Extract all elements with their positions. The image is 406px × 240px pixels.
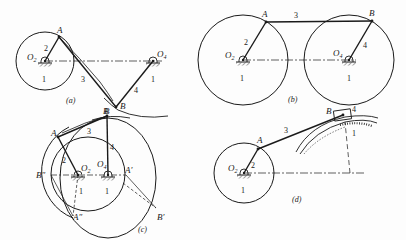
label-link-3: 3 <box>284 126 288 135</box>
diagram-svg: A 2 O2 1 3 4 B B O4 1 (a) A 3 B 2 O2 1 O… <box>0 0 406 240</box>
label-o2: O2 <box>27 52 37 63</box>
label-link-2: 2 <box>44 44 48 53</box>
panel-c: B A 3 4 2 O2 O4 B″ A′ 1 1 A″ B′ (c) <box>36 106 165 238</box>
label-ground-right: 1 <box>105 187 109 196</box>
label-a-prime: A′ <box>124 165 133 175</box>
link-3 <box>266 21 372 22</box>
panel-a: A 2 O2 1 3 4 B B O4 1 (a) <box>16 25 168 120</box>
label-link-3: 3 <box>294 11 298 20</box>
label-link-4: 4 <box>134 86 138 95</box>
label-ground-left: 1 <box>42 75 46 84</box>
label-ground-left: 1 <box>240 74 244 83</box>
label-a: A <box>50 128 57 138</box>
ground-hatch <box>340 123 372 126</box>
label-b: B <box>120 101 126 111</box>
label-a-double-prime: A″ <box>72 212 82 222</box>
label-link-3: 3 <box>81 75 85 84</box>
link-4 <box>107 116 108 175</box>
label-o4: O4 <box>97 159 107 170</box>
linkage-diagram-figure: A 2 O2 1 3 4 B B O4 1 (a) A 3 B 2 O2 1 O… <box>0 0 406 240</box>
arc-left <box>42 127 73 218</box>
curved-guide-lower <box>300 120 377 154</box>
label-b: B <box>369 8 375 18</box>
construction-o4-b1 <box>123 183 156 208</box>
joint-a <box>57 136 60 139</box>
pivot-o4-icon <box>342 56 356 66</box>
joint-a <box>58 36 61 39</box>
label-link-3: 3 <box>87 127 91 136</box>
label-link-2: 2 <box>62 156 66 165</box>
link-3 <box>58 116 107 137</box>
radius-line <box>345 122 350 173</box>
label-ground-left: 1 <box>79 187 83 196</box>
label-o2: O2 <box>81 163 91 174</box>
label-ground-left: 1 <box>241 186 245 195</box>
label-o2: O2 <box>225 50 235 61</box>
label-b: B <box>326 106 332 116</box>
joint-b <box>115 106 118 109</box>
coupler-curve <box>104 98 168 117</box>
caption-a: (a) <box>66 96 76 105</box>
label-o4: O4 <box>333 48 343 59</box>
label-ground-right: 1 <box>347 74 351 83</box>
panel-d: A 3 B 4 1 2 O2 1 (d) <box>214 105 378 204</box>
label-a: A <box>261 9 268 19</box>
construction-b2-a2 <box>51 175 73 216</box>
pivot-o2-icon <box>236 56 250 66</box>
panel-b: A 3 B 2 O2 1 O4 4 1 (b) <box>198 8 394 105</box>
joint-b <box>342 114 345 117</box>
label-a: A <box>256 135 263 145</box>
label-link-4: 4 <box>352 105 356 114</box>
label-link-2: 2 <box>244 38 248 47</box>
label-link-4: 4 <box>110 143 114 152</box>
label-ground-right: 1 <box>352 129 356 138</box>
label-a: A <box>56 25 63 35</box>
joint-b <box>371 20 374 23</box>
construction-a1-b1 <box>126 175 156 208</box>
joint-a <box>257 148 260 151</box>
guide-hatch <box>304 127 345 154</box>
joint-a <box>265 21 268 24</box>
pivot-o2-icon <box>237 169 251 179</box>
caption-d: (d) <box>292 195 302 204</box>
label-b-double-prime: B″ <box>36 170 45 180</box>
label-link-2: 2 <box>251 161 255 170</box>
label-ground-right: 1 <box>151 75 155 84</box>
link-4 <box>349 21 372 60</box>
caption-b: (b) <box>288 95 298 104</box>
pivot-o2-icon <box>38 57 52 67</box>
label-o2: O2 <box>228 163 238 174</box>
label-o4: O4 <box>157 49 167 60</box>
caption-c: (c) <box>138 225 147 234</box>
label-b: B <box>104 106 110 116</box>
label-link-4: 4 <box>363 41 367 50</box>
label-b-prime: B′ <box>157 212 165 222</box>
